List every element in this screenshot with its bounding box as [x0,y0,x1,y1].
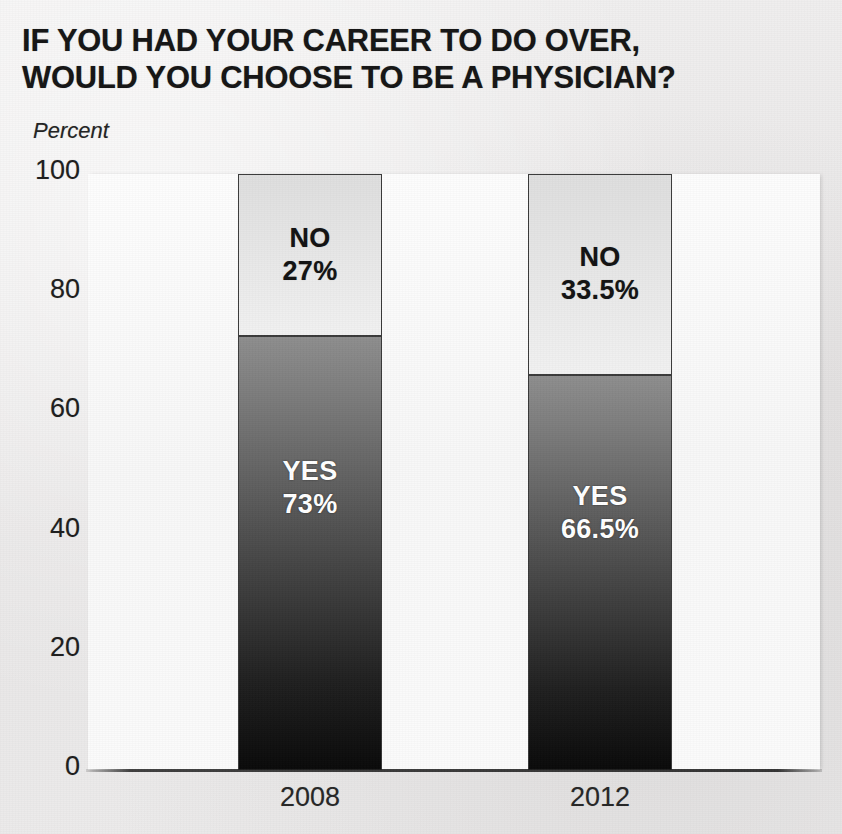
chart-title-line-1: IF YOU HAD YOUR CAREER TO DO OVER, [22,22,794,59]
bar-segment-yes-2012[interactable]: YES66.5% [528,374,672,770]
bar-segment-yes-value-2012: 66.5% [561,513,639,546]
y-axis-tick-60: 60 [2,393,80,424]
y-axis-tick-0: 0 [2,751,80,782]
chart-figure: IF YOU HAD YOUR CAREER TO DO OVER, WOULD… [0,0,842,834]
bar-segment-yes-2008[interactable]: YES73% [238,335,382,770]
x-axis-label-2008: 2008 [238,782,382,813]
x-axis-baseline [86,769,822,772]
bar-segment-no-value-2008: 27% [283,255,338,288]
bar-segment-yes-value-2008: 73% [283,488,338,521]
bar-segment-yes-label-2008: YES [283,455,338,488]
chart-title: IF YOU HAD YOUR CAREER TO DO OVER, WOULD… [22,22,822,96]
bar-segment-no-label-2012: NO [579,241,620,274]
stacked-bar-2008[interactable]: NO27%YES73% [238,174,382,770]
bar-segment-no-label-2008: NO [289,222,330,255]
y-axis-tick-80: 80 [2,274,80,305]
y-axis: 020406080100 [0,0,80,834]
bar-segment-yes-label-2012: YES [573,480,628,513]
bar-segment-no-value-2012: 33.5% [561,274,639,307]
y-axis-tick-100: 100 [2,155,80,186]
stacked-bar-2012[interactable]: NO33.5%YES66.5% [528,174,672,770]
x-axis-label-2012: 2012 [528,782,672,813]
plot-area [88,174,820,770]
y-axis-tick-40: 40 [2,513,80,544]
bar-segment-no-2012[interactable]: NO33.5% [528,174,672,374]
chart-title-line-2: WOULD YOU CHOOSE TO BE A PHYSICIAN? [22,59,794,96]
y-axis-tick-20: 20 [2,632,80,663]
bar-segment-no-2008[interactable]: NO27% [238,174,382,335]
